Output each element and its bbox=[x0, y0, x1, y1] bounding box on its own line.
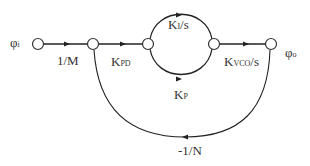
label-minus-1-over-n: -1/N bbox=[178, 144, 202, 157]
branch-1-over-m bbox=[44, 42, 87, 47]
signal-flow-graph bbox=[0, 0, 310, 166]
branch-kpd bbox=[99, 42, 142, 47]
node-2 bbox=[88, 39, 99, 50]
branch-kp bbox=[150, 49, 212, 82]
label-kp: KP bbox=[174, 88, 188, 101]
label-ki-over-s: KI/s bbox=[168, 18, 189, 31]
label-phi-i: φi bbox=[10, 36, 20, 49]
branch-kvco-over-s bbox=[220, 42, 265, 47]
label-kvco-over-s: KVCO/s bbox=[224, 55, 259, 68]
node-4 bbox=[209, 39, 220, 50]
node-output bbox=[266, 39, 277, 50]
label-1-over-m: 1/M bbox=[57, 54, 79, 67]
node-input bbox=[33, 39, 44, 50]
node-3 bbox=[143, 39, 154, 50]
label-phi-o: φo bbox=[285, 46, 297, 59]
label-kpd: KPD bbox=[111, 55, 131, 68]
